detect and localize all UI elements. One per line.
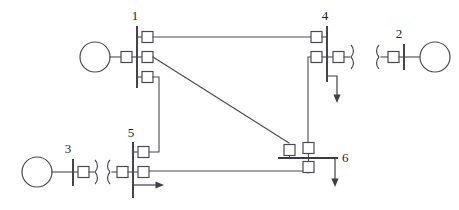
line-bus5-bus6[interactable]	[149, 171, 308, 173]
breaker-bus4-to-transformer[interactable]	[333, 52, 344, 63]
breaker-bus4-to-bus6[interactable]	[311, 52, 322, 63]
breaker-bus1-to-bus6[interactable]	[142, 52, 153, 63]
breaker-bus6-to-bus1[interactable]	[284, 145, 295, 156]
load-arrow-bus4	[333, 95, 340, 104]
bus-label-2: 2	[396, 26, 403, 41]
line-bus1-bus5[interactable]	[149, 77, 159, 152]
single-line-diagram-canvas: 1	[0, 0, 459, 210]
transformer-icon-bus3-arc-lower	[95, 172, 97, 184]
bus-label-5: 5	[128, 125, 135, 140]
transformer-icon-bus5-arc-lower	[108, 172, 110, 184]
bus-5-group: 5	[108, 125, 164, 198]
transformer-icon-bus2-arc-lower	[377, 57, 379, 69]
line-bus4-bus6[interactable]	[308, 57, 311, 143]
bus-4-group: 4	[311, 8, 353, 103]
line-bus1-bus6[interactable]	[153, 57, 289, 143]
breaker-bus3-generator[interactable]	[78, 167, 89, 178]
breaker-bus1-to-bus4[interactable]	[142, 32, 153, 43]
transformer-icon-bus3-arc-upper	[95, 160, 97, 172]
generator-icon-bus3	[22, 157, 52, 187]
load-feeder-bus4	[327, 76, 337, 96]
bus-label-1: 1	[132, 8, 139, 23]
breaker-bus4-to-bus1[interactable]	[311, 32, 322, 43]
power-system-diagram: 1	[0, 0, 459, 210]
breaker-bus5-to-bus1[interactable]	[138, 147, 149, 158]
breaker-bus6-to-bus5[interactable]	[303, 162, 314, 173]
bus-label-6: 6	[342, 150, 349, 165]
load-arrow-bus6	[331, 179, 338, 188]
breaker-bus5-to-bus6[interactable]	[138, 167, 149, 178]
bus-label-4: 4	[322, 8, 329, 23]
transformer-icon-bus2-arc-upper	[377, 45, 379, 57]
breaker-bus6-to-bus4[interactable]	[303, 143, 314, 154]
bus-label-3: 3	[65, 141, 72, 156]
breaker-bus2-generator[interactable]	[388, 52, 399, 63]
breaker-bus1-generator[interactable]	[121, 52, 132, 63]
breaker-bus1-to-bus5[interactable]	[142, 72, 153, 83]
transformer-icon-bus5-arc-upper	[108, 160, 110, 172]
bus-3-group: 3	[22, 141, 97, 187]
transformer-icon-bus4-arc-upper	[351, 45, 353, 57]
bus-2-group: 2	[377, 26, 450, 72]
bus-6-group: 6	[278, 143, 349, 188]
generator-icon-bus1	[80, 42, 110, 72]
transformer-icon-bus4-arc-lower	[351, 57, 353, 69]
breaker-bus5-to-transformer[interactable]	[117, 167, 128, 178]
generator-icon-bus2	[420, 42, 450, 72]
bus-1-group: 1	[80, 8, 153, 88]
load-arrow-bus5	[156, 181, 165, 188]
